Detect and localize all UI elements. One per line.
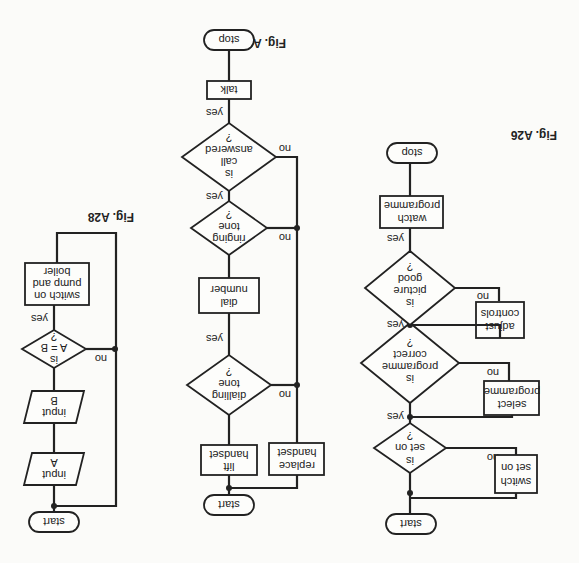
io2-line2: B — [50, 395, 57, 407]
yes-label: yes — [386, 319, 404, 331]
no-label: no — [279, 389, 291, 401]
p4-line2: handset — [277, 447, 316, 459]
p4-line1: watch — [398, 213, 428, 225]
no-label: no — [487, 367, 499, 379]
figure-a26: Fig. A26 start is set on ? no switch set… — [361, 128, 557, 534]
d1-line3: ? — [407, 430, 413, 442]
p1-line2: set on — [501, 462, 531, 474]
d1-line2: set on — [395, 442, 425, 454]
p2-line1: select — [498, 399, 527, 411]
yes-label: yes — [386, 411, 404, 423]
figure-a27: Fig. A27 start lift handset dialling ton… — [182, 30, 324, 515]
p1-line3: boiler — [43, 266, 70, 278]
d3-line3: answered — [205, 144, 253, 156]
d3-line1: is — [406, 297, 414, 309]
d2-line4: ? — [407, 337, 413, 349]
p1-line2: pump and — [33, 278, 82, 290]
start-label: start — [218, 499, 239, 511]
yes-label: yes — [205, 333, 223, 345]
figure-a28: Fig. A28 start input A input B is A = B … — [22, 210, 134, 532]
d1-line1: is — [50, 354, 58, 366]
d3-line2: call — [221, 156, 238, 168]
p1-line1: switch — [501, 476, 532, 488]
d1-line1: dialling — [212, 390, 246, 402]
d3-line1: is — [225, 168, 233, 180]
d1-line1: is — [406, 455, 414, 467]
d2-line2: tone — [218, 221, 239, 233]
d3-line2: picture — [393, 285, 426, 297]
no-label: no — [279, 232, 291, 244]
flowchart-page: Fig. A26 start is set on ? no switch set… — [0, 0, 579, 563]
stop-label: stop — [402, 147, 423, 159]
d2-line3: correct — [393, 349, 427, 361]
yes-label: yes — [205, 191, 223, 203]
p4-line2: programme — [384, 200, 440, 212]
io2-line1: input — [42, 407, 66, 419]
no-label: no — [95, 353, 107, 365]
yes-label: yes — [30, 313, 48, 325]
d1-line2: tone — [218, 378, 239, 390]
p3-line2: controls — [480, 308, 519, 320]
p1-line1: lift — [224, 461, 235, 473]
d2-line1: is — [406, 373, 414, 385]
yes-label: yes — [205, 107, 223, 119]
d2-line3: ? — [226, 209, 232, 221]
d2-line2: programme — [382, 361, 438, 373]
d3-line4: ? — [407, 261, 413, 273]
d1-line3: ? — [226, 366, 232, 378]
d1-line3: ? — [51, 331, 57, 343]
io1-line2: A — [50, 457, 58, 469]
yes-label: yes — [386, 233, 404, 245]
start-label: start — [43, 516, 64, 528]
stop-label: stop — [219, 34, 240, 46]
p3-line1: talk — [220, 84, 238, 96]
d3-line3: good — [398, 273, 422, 285]
p2-line1: dial — [220, 297, 237, 309]
caption-a26: Fig. A26 — [510, 128, 557, 142]
caption-a28: Fig. A28 — [87, 210, 134, 224]
d3-line4: ? — [226, 132, 232, 144]
d2-line1: ringing — [212, 233, 245, 245]
start-label: start — [400, 518, 421, 530]
no-label: no — [279, 143, 291, 155]
p2-line2: number — [210, 284, 248, 296]
p4-line1: replace — [279, 460, 315, 472]
p2-line2: programme — [484, 386, 540, 398]
p1-line1: switch on — [34, 290, 80, 302]
p1-line2: handset — [209, 449, 248, 461]
io1-line1: input — [42, 469, 66, 481]
